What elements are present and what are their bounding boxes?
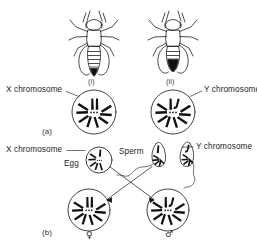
leader-x-a <box>66 92 79 97</box>
label-x-chromosome-panel-b: X chromosome <box>6 146 62 154</box>
male-symbol: ♂ <box>165 229 173 239</box>
fly-male-drawing <box>148 11 198 73</box>
fly-label-i: (i) <box>88 78 95 85</box>
female-symbol: ♀ <box>86 230 93 240</box>
zygote-daughter-xx <box>68 189 110 231</box>
fly-label-ii: (ii) <box>166 78 174 85</box>
panel-label-b: (b) <box>42 229 52 237</box>
zygote-son-xy <box>147 189 189 231</box>
sex-determination-figure: X chromosome Y chromosome (i) (ii) (a) X… <box>0 0 257 242</box>
label-y-chromosome-panel-b: Y chromosome <box>196 143 252 151</box>
label-egg: Egg <box>64 160 79 168</box>
gamete-sperm-y <box>180 142 195 188</box>
cell-male-xy <box>151 90 195 134</box>
fly-female-drawing <box>69 11 119 76</box>
fertilisation-arrows <box>106 167 154 203</box>
gamete-egg <box>86 147 112 173</box>
figure-drawing <box>0 0 257 242</box>
leader-y-a <box>190 91 202 97</box>
panel-label-a: (a) <box>42 128 52 136</box>
label-y-chromosome-panel-a: Y chromosome <box>204 86 257 94</box>
label-x-chromosome-panel-a: X chromosome <box>6 86 62 94</box>
label-sperm: Sperm <box>119 148 144 156</box>
